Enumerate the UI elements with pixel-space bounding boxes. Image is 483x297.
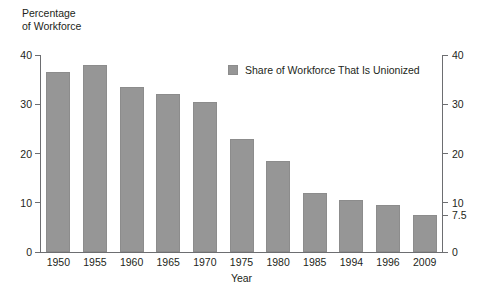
x-tick-label-2009: 2009 — [406, 257, 443, 268]
chart-legend: Share of Workforce That Is Unionized — [228, 64, 420, 76]
y-axis-title: Percentage of Workforce — [22, 7, 81, 33]
y-tick-label-right-0: 0 — [452, 247, 458, 258]
y-tick-right-10 — [443, 202, 448, 203]
bar-1975 — [230, 139, 254, 252]
x-tick-label-1960: 1960 — [113, 257, 150, 268]
x-tick-label-1970: 1970 — [187, 257, 224, 268]
bar-1970 — [193, 102, 217, 252]
bar-2009 — [413, 215, 437, 252]
x-axis-title: Year — [0, 272, 483, 284]
x-tick-label-1980: 1980 — [260, 257, 297, 268]
y-tick-label-right-20: 20 — [452, 149, 464, 160]
x-tick-label-1994: 1994 — [333, 257, 370, 268]
legend-label: Share of Workforce That Is Unionized — [245, 64, 420, 76]
bar-1965 — [156, 94, 180, 252]
bar-1950 — [46, 72, 70, 252]
bar-1955 — [83, 65, 107, 252]
legend-color-swatch — [228, 65, 238, 75]
bar-1994 — [339, 200, 363, 252]
y-tick-right-20 — [443, 153, 448, 154]
y-tick-label-left-0: 0 — [26, 247, 32, 258]
x-tick-label-1950: 1950 — [40, 257, 77, 268]
bar-1960 — [120, 87, 144, 252]
y-tick-label-left-20: 20 — [20, 149, 32, 160]
plot-area — [40, 55, 443, 252]
bar-chart: Percentage of Workforce 403020100 403020… — [0, 0, 483, 297]
bar-1980 — [266, 161, 290, 252]
y-tick-label-left-40: 40 — [20, 50, 32, 61]
y-tick-label-right-30: 30 — [452, 99, 464, 110]
y-tick-right-30 — [443, 104, 448, 105]
x-tick-label-1996: 1996 — [370, 257, 407, 268]
x-axis-baseline — [40, 252, 443, 253]
bar-1985 — [303, 193, 327, 252]
y-tick-right-7.5 — [443, 215, 448, 216]
x-tick-label-1965: 1965 — [150, 257, 187, 268]
x-tick-label-1975: 1975 — [223, 257, 260, 268]
x-tick-label-1955: 1955 — [77, 257, 114, 268]
y-tick-right-40 — [443, 55, 448, 56]
y-tick-label-left-10: 10 — [20, 198, 32, 209]
y-tick-label-right-10: 10 — [452, 198, 464, 209]
bar-1996 — [376, 205, 400, 252]
x-tick-label-1985: 1985 — [296, 257, 333, 268]
y-tick-label-right-40: 40 — [452, 50, 464, 61]
y-tick-label-left-30: 30 — [20, 99, 32, 110]
y-tick-label-right-7.5: 7.5 — [452, 210, 467, 221]
y-tick-right-0 — [443, 252, 448, 253]
